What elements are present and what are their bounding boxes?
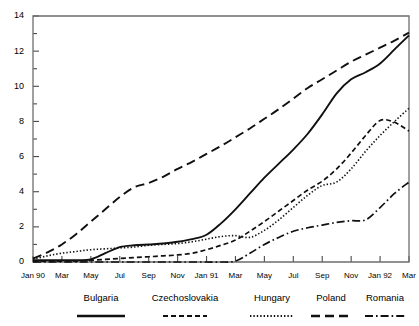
data-series-group — [33, 33, 409, 262]
legend-label-bulgaria: Bulgaria — [84, 292, 120, 303]
series-line-poland — [33, 33, 409, 259]
y-tick-label: 0 — [19, 256, 24, 266]
x-tick-label: Mar — [229, 271, 243, 280]
x-tick-label: Jul — [288, 271, 298, 280]
legend-label-poland: Poland — [316, 292, 346, 303]
plot-border — [33, 16, 409, 262]
y-tick-label: 2 — [19, 221, 24, 231]
x-tick-label: Sep — [142, 271, 157, 280]
y-tick-label: 4 — [19, 186, 24, 196]
legend-label-romania: Romania — [366, 292, 405, 303]
series-line-hungary — [33, 108, 409, 259]
x-tick-label: Sep — [315, 271, 330, 280]
x-tick-label: May — [83, 271, 98, 280]
y-axis-tick-labels: 02468101214 — [14, 10, 24, 266]
x-tick-label: Mar — [55, 271, 69, 280]
x-tick-label: Mar — [402, 271, 416, 280]
y-tick-label: 10 — [14, 81, 24, 91]
x-tick-label: Nov — [170, 271, 184, 280]
y-tick-label: 6 — [19, 151, 24, 161]
y-tick-label: 14 — [14, 10, 24, 20]
x-tick-label: Jan 91 — [195, 271, 220, 280]
line-chart: 02468101214 Jan 90MarMayJulSepNovJan 91M… — [0, 0, 419, 326]
y-tick-label: 12 — [14, 46, 24, 56]
x-tick-label: Jul — [115, 271, 125, 280]
x-tick-label: Nov — [344, 271, 358, 280]
legend-label-czechoslovakia: Czechoslovakia — [152, 292, 219, 303]
series-line-romania — [33, 182, 409, 262]
y-axis-tick-marks — [33, 16, 39, 262]
x-tick-label: Jan 90 — [21, 271, 46, 280]
x-tick-label: May — [257, 271, 272, 280]
legend-label-hungary: Hungary — [254, 292, 290, 303]
y-tick-label: 8 — [19, 116, 24, 126]
chart-container: 02468101214 Jan 90MarMayJulSepNovJan 91M… — [0, 0, 419, 326]
x-axis-tick-labels: Jan 90MarMayJulSepNovJan 91MarMayJulSepN… — [21, 271, 416, 280]
x-tick-label: Jan 92 — [368, 271, 393, 280]
series-line-bulgaria — [33, 35, 409, 260]
series-line-czechoslovakia — [33, 120, 409, 262]
plot-frame — [33, 16, 409, 262]
chart-legend: BulgariaCzechoslovakiaHungaryPolandRoman… — [77, 292, 405, 316]
